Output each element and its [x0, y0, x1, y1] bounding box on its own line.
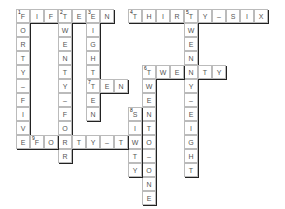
crossword-cell[interactable]: E	[58, 37, 72, 51]
crossword-cell[interactable]: I	[16, 107, 30, 121]
crossword-cell[interactable]: Y	[16, 65, 30, 79]
crossword-cell[interactable]: E	[170, 65, 184, 79]
crossword-cell[interactable]: T	[58, 65, 72, 79]
crossword-cell[interactable]: R	[58, 149, 72, 163]
cell-letter: Y	[217, 69, 222, 76]
crossword-cell[interactable]: H	[184, 149, 198, 163]
crossword-cell[interactable]: E	[16, 135, 30, 149]
crossword-cell[interactable]: N	[114, 79, 128, 93]
cell-letter: N	[188, 55, 193, 62]
crossword-cell[interactable]: T6	[142, 65, 156, 79]
crossword-cell[interactable]: Y	[128, 163, 142, 177]
crossword-cell[interactable]: H	[86, 51, 100, 65]
crossword-cell[interactable]: N	[184, 65, 198, 79]
crossword-cell[interactable]: O	[58, 121, 72, 135]
cell-letter: W	[132, 139, 139, 146]
crossword-cell[interactable]: X	[254, 9, 268, 23]
crossword-cell[interactable]: T	[16, 51, 30, 65]
crossword-cell[interactable]: T4	[128, 9, 142, 23]
crossword-cell[interactable]: –	[212, 9, 226, 23]
crossword-cell[interactable]: Y	[212, 65, 226, 79]
crossword-cell[interactable]: I	[128, 121, 142, 135]
crossword-cell[interactable]: W	[128, 135, 142, 149]
crossword-cell[interactable]: N	[100, 9, 114, 23]
cell-letter: –	[217, 13, 221, 20]
crossword-cell[interactable]: T	[86, 65, 100, 79]
cell-letter: I	[134, 125, 136, 132]
crossword-cell[interactable]: E	[72, 9, 86, 23]
crossword-cell[interactable]: O	[142, 135, 156, 149]
crossword-cell[interactable]: E	[100, 79, 114, 93]
crossword-cell[interactable]: W	[156, 65, 170, 79]
crossword-cell[interactable]: H	[142, 9, 156, 23]
crossword-cell[interactable]: W	[142, 79, 156, 93]
crossword-cell[interactable]: F1	[16, 9, 30, 23]
crossword-cell[interactable]: N	[86, 107, 100, 121]
cell-letter: –	[189, 97, 193, 104]
crossword-cell[interactable]: T	[142, 121, 156, 135]
cell-letter: I	[36, 13, 38, 20]
crossword-cell[interactable]: –	[16, 79, 30, 93]
crossword-cell[interactable]: O	[44, 135, 58, 149]
crossword-cell[interactable]: R	[16, 37, 30, 51]
crossword-cell[interactable]: E	[142, 191, 156, 205]
crossword-cell[interactable]: W	[184, 23, 198, 37]
crossword-cell[interactable]: T2	[58, 9, 72, 23]
crossword-cell[interactable]: R	[170, 9, 184, 23]
crossword-cell[interactable]: S	[226, 9, 240, 23]
crossword-cell[interactable]: N	[142, 107, 156, 121]
crossword-cell[interactable]: E	[86, 93, 100, 107]
crossword-cell[interactable]: F	[16, 93, 30, 107]
crossword-cell[interactable]: Y	[198, 9, 212, 23]
crossword-cell[interactable]: V	[16, 121, 30, 135]
crossword-cell[interactable]: G	[86, 37, 100, 51]
crossword-cell[interactable]: N	[184, 51, 198, 65]
crossword-cell[interactable]: I	[156, 9, 170, 23]
cell-letter: N	[90, 111, 95, 118]
crossword-cell[interactable]: I	[30, 9, 44, 23]
clue-number: 2	[60, 9, 63, 15]
crossword-cell[interactable]: –	[58, 93, 72, 107]
crossword-cell[interactable]: N	[58, 51, 72, 65]
crossword-cell[interactable]: O	[142, 163, 156, 177]
crossword-cell[interactable]: E3	[86, 9, 100, 23]
crossword-cell[interactable]: T	[128, 149, 142, 163]
crossword-cell[interactable]: –	[184, 93, 198, 107]
crossword-cell[interactable]: T	[184, 163, 198, 177]
crossword-cell[interactable]: T	[114, 135, 128, 149]
crossword-cell[interactable]: N	[142, 177, 156, 191]
crossword-cell[interactable]: T	[198, 65, 212, 79]
crossword-cell[interactable]: I	[184, 121, 198, 135]
crossword-cell[interactable]: Y	[58, 79, 72, 93]
crossword-grid: F1IFT2EE3NORTY–FIVEWENTY–FORRIGHTT7ENT4H…	[0, 0, 285, 209]
crossword-cell[interactable]: –	[100, 135, 114, 149]
cell-letter: N	[146, 111, 151, 118]
cell-letter: T	[189, 13, 193, 20]
crossword-cell[interactable]: O	[16, 23, 30, 37]
crossword-cell[interactable]: T	[72, 135, 86, 149]
cell-letter: R	[174, 13, 179, 20]
cell-letter: H	[146, 13, 151, 20]
crossword-cell[interactable]: F	[58, 107, 72, 121]
crossword-cell[interactable]: –	[142, 149, 156, 163]
cell-letter: Y	[189, 83, 194, 90]
crossword-cell[interactable]: I	[240, 9, 254, 23]
crossword-cell[interactable]: W	[58, 23, 72, 37]
crossword-cell[interactable]: F9	[30, 135, 44, 149]
crossword-cell[interactable]: S8	[128, 107, 142, 121]
crossword-cell[interactable]: R	[58, 135, 72, 149]
crossword-cell[interactable]: Y	[86, 135, 100, 149]
crossword-cell[interactable]: Y	[184, 79, 198, 93]
crossword-cell[interactable]: F	[44, 9, 58, 23]
crossword-cell[interactable]: E	[184, 37, 198, 51]
cell-letter: O	[20, 27, 25, 34]
crossword-cell[interactable]: E	[184, 107, 198, 121]
cell-letter: E	[91, 97, 96, 104]
crossword-cell[interactable]: E	[142, 93, 156, 107]
cell-letter: T	[189, 167, 193, 174]
crossword-cell[interactable]: T7	[86, 79, 100, 93]
cell-letter: T	[133, 13, 137, 20]
crossword-cell[interactable]: G	[184, 135, 198, 149]
crossword-cell[interactable]: T5	[184, 9, 198, 23]
crossword-cell[interactable]: I	[86, 23, 100, 37]
